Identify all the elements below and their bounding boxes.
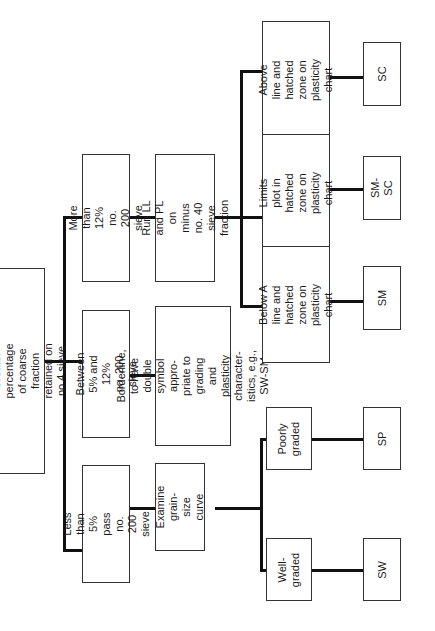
- connector-less5-examine: [130, 507, 155, 510]
- node-examine-grain-size: Examine grain- size curve: [155, 463, 205, 551]
- node-label: Above line and hatched zone on plasticit…: [257, 58, 335, 100]
- symbol-label: SC: [376, 66, 389, 81]
- node-borderline: Borderline, to have double symbol appro-…: [155, 306, 231, 446]
- connector-plasticity-spine: [240, 70, 243, 308]
- node-label: Poorly graded: [276, 421, 302, 455]
- symbol-sm: SM: [363, 266, 401, 330]
- symbol-sp: SP: [363, 407, 401, 470]
- node-more-than-12: More than 12% no. 200 sieve: [82, 154, 130, 282]
- node-limits-plot: Limits plot in hatched zone on plasticit…: [262, 134, 330, 251]
- node-label: More than 12% no. 200 sieve: [67, 205, 145, 231]
- connector-spine-less5: [63, 549, 82, 552]
- symbol-label: SW: [376, 561, 389, 579]
- symbol-label: SM: [376, 290, 389, 307]
- node-label: Examine grain- size curve: [154, 486, 206, 529]
- connector-poorly-sp: [312, 438, 363, 441]
- node-label: Run LL and PL on minus no. 40 sieve frac…: [140, 200, 231, 236]
- node-label: Limits plot in hatched zone on plasticit…: [257, 171, 335, 213]
- root-node-sand: Sand (S) Greater percentage of coarse fr…: [0, 268, 45, 474]
- node-below-a-line: Below A line and hatched zone on plastic…: [262, 246, 330, 363]
- symbol-sc: SC: [363, 42, 401, 106]
- node-well-graded: Well- graded: [266, 538, 312, 601]
- node-label: Less than 5% pass no. 200 sieve: [61, 511, 152, 537]
- root-node-label: Sand (S) Greater percentage of coarse fr…: [0, 343, 67, 398]
- node-poorly-graded: Poorly graded: [266, 407, 312, 470]
- connector-well-sw: [312, 569, 363, 572]
- node-run-ll-pl: Run LL and PL on minus no. 40 sieve frac…: [155, 154, 215, 282]
- node-label: Well- graded: [276, 552, 302, 586]
- node-above-line: Above line and hatched zone on plasticit…: [262, 21, 330, 138]
- connector-grading-spine: [260, 438, 263, 572]
- node-less-than-5: Less than 5% pass no. 200 sieve: [82, 465, 130, 583]
- node-label: Borderline, to have double symbol appro-…: [115, 349, 271, 402]
- symbol-label: SP: [376, 431, 389, 446]
- symbol-sm-sc: SM-SC: [363, 156, 401, 220]
- symbol-label: SM-SC: [369, 178, 395, 198]
- node-label: Below A line and hatched zone on plastic…: [257, 283, 335, 325]
- connector-examine-spine: [215, 507, 262, 510]
- symbol-sw: SW: [363, 538, 401, 601]
